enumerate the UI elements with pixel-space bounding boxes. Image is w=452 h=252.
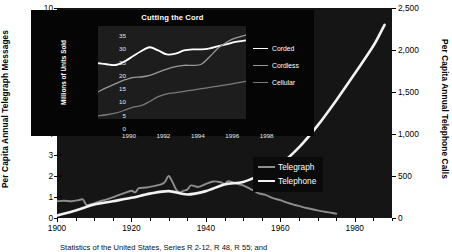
inset-y-tick-label: 10 — [111, 98, 126, 105]
legend-label-cellular: Cellular — [272, 79, 295, 86]
x-tick-label: 1980 — [337, 223, 373, 233]
x-tick-mark — [94, 218, 95, 221]
y-tick-label: 1 — [25, 192, 53, 202]
x-tick-mark — [355, 218, 356, 222]
x-tick-label: 1920 — [113, 223, 149, 233]
x-tick-mark — [76, 218, 77, 221]
y-tick-label: 2 — [25, 171, 53, 181]
legend-swatch-cellular — [253, 82, 268, 83]
legend-swatch-telephone — [258, 180, 275, 182]
inset-x-tick-label: 1990 — [116, 132, 142, 139]
y2-tick-mark — [392, 176, 396, 177]
y-tick-label: 3 — [25, 150, 53, 160]
legend-item-telegraph: Telegraph — [258, 160, 316, 174]
inset-y-tick-label: 0 — [111, 125, 126, 132]
x-tick-mark — [373, 218, 374, 221]
x-tick-mark — [225, 218, 226, 221]
left-axis-title-text: Per Capita Annual Telegraph Messages — [0, 30, 10, 188]
legend-label-cordless: Cordless — [272, 62, 299, 69]
y2-tick-label: 500 — [398, 171, 432, 181]
y2-tick-label: 2,000 — [398, 45, 432, 55]
inset-chart: Cutting the Cord Millions of Units Sold … — [31, 10, 314, 136]
y-tick-mark — [54, 8, 57, 9]
x-tick-mark — [392, 218, 393, 221]
inset-y-tick-label: 20 — [111, 72, 126, 79]
main-legend: Telegraph Telephone — [253, 157, 323, 192]
inset-x-tick-label: 1996 — [219, 132, 245, 139]
y-tick-mark — [54, 176, 57, 177]
y2-tick-label: 1,000 — [398, 129, 432, 139]
x-tick-mark — [150, 218, 151, 221]
inset-y-tick-label: 35 — [111, 32, 126, 39]
x-tick-mark — [169, 218, 170, 221]
y-tick-label: 0 — [25, 213, 53, 223]
legend-item-corded: Corded — [253, 40, 311, 57]
inset-legend: Corded Cordless Cellular — [253, 40, 311, 91]
inset-y-tick-label: 30 — [111, 45, 126, 52]
inset-y-tick-label: 25 — [111, 59, 126, 66]
y2-tick-label: 2,500 — [398, 3, 432, 13]
x-tick-label: 1940 — [188, 223, 224, 233]
legend-swatch-corded — [253, 48, 268, 49]
y-tick-mark — [54, 155, 57, 156]
x-tick-mark — [57, 218, 58, 222]
x-tick-mark — [280, 218, 281, 222]
y2-tick-mark — [392, 134, 396, 135]
legend-label-corded: Corded — [272, 45, 294, 52]
x-tick-label: 1960 — [262, 223, 298, 233]
y2-tick-label: 0 — [398, 213, 432, 223]
x-tick-mark — [243, 218, 244, 221]
legend-label-telephone: Telephone — [278, 176, 316, 186]
y2-tick-mark — [392, 50, 396, 51]
x-tick-mark — [299, 218, 300, 221]
figure-caption: Statistics of the United States, Series … — [60, 243, 452, 252]
y2-tick-mark — [392, 92, 396, 93]
inset-y-axis-title: Millions of Units Sold — [57, 26, 69, 119]
x-tick-mark — [318, 218, 319, 221]
y-tick-mark — [54, 197, 57, 198]
inset-y-tick-label: 5 — [111, 112, 126, 119]
inset-y-tick-label: 15 — [111, 85, 126, 92]
inset-x-tick-label: 1992 — [150, 132, 176, 139]
legend-swatch-cordless — [253, 65, 268, 66]
inset-title: Cutting the Cord — [31, 13, 314, 22]
x-tick-mark — [113, 218, 114, 221]
x-tick-mark — [206, 218, 207, 222]
right-axis-title: Per Capita Annual Telephone Calls — [438, 0, 452, 218]
legend-item-cordless: Cordless — [253, 57, 311, 74]
y2-tick-label: 1,500 — [398, 87, 432, 97]
legend-item-cellular: Cellular — [253, 74, 311, 91]
x-tick-mark — [336, 218, 337, 221]
x-tick-label: 1900 — [39, 223, 75, 233]
legend-swatch-telegraph — [258, 166, 275, 168]
x-tick-mark — [131, 218, 132, 222]
y2-tick-mark — [392, 8, 396, 9]
x-tick-mark — [262, 218, 263, 221]
inset-x-tick-label: 1998 — [254, 132, 280, 139]
inset-y-axis-title-text: Millions of Units Sold — [60, 40, 67, 105]
left-axis-title: Per Capita Annual Telegraph Messages — [0, 0, 12, 218]
inset-x-tick-label: 1994 — [185, 132, 211, 139]
right-axis-title-text: Per Capita Annual Telephone Calls — [440, 39, 450, 179]
legend-item-telephone: Telephone — [258, 174, 316, 188]
x-tick-mark — [187, 218, 188, 221]
legend-label-telegraph: Telegraph — [278, 162, 314, 172]
